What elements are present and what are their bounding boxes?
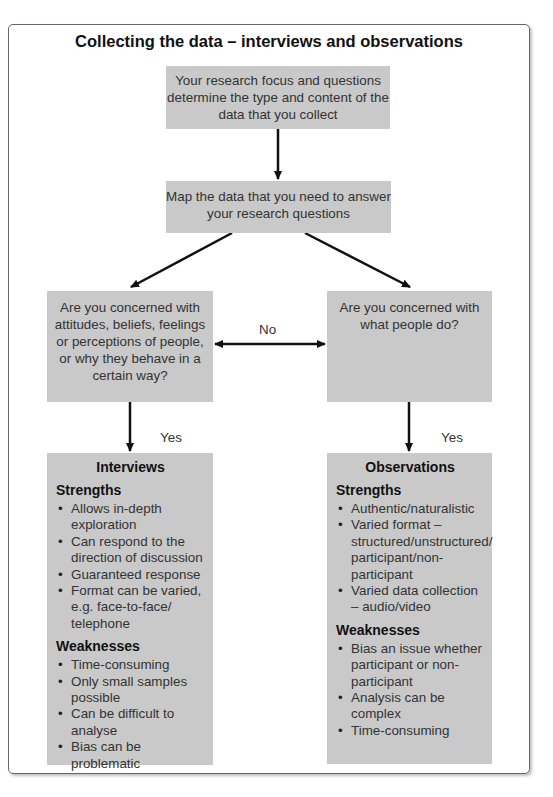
node-observations: Observations Strengths Authentic/natural… [327, 453, 492, 764]
node-text: Map the data that you need to answer you… [166, 188, 391, 222]
interviews-weaknesses-list: Time-consuming Only small samples possib… [56, 657, 205, 772]
edge-label-no: No [259, 322, 276, 337]
list-item: Time-consuming [336, 723, 484, 739]
list-item: Only small samples possible [56, 674, 205, 707]
list-item: Bias can be problematic [56, 739, 205, 772]
node-map-data: Map the data that you need to answer you… [166, 181, 391, 233]
interviews-strengths-heading: Strengths [56, 482, 205, 499]
node-text: Are you concerned with attitudes, belief… [53, 299, 207, 384]
list-item: Varied data collection – audio/video [336, 583, 484, 616]
observations-heading: Observations [336, 459, 484, 476]
interviews-heading: Interviews [56, 459, 205, 476]
list-item: Varied format – structured/unstructured/… [336, 517, 484, 583]
list-item: Format can be varied, e.g. face-to-face/… [56, 583, 205, 632]
observations-weaknesses-list: Bias an issue whether participant or non… [336, 641, 484, 739]
interviews-weaknesses-heading: Weaknesses [56, 638, 205, 655]
node-behaviour-question: Are you concerned with what people do? [327, 291, 492, 402]
edge-label-right-yes: Yes [441, 430, 463, 445]
interviews-strengths-list: Allows in-depth exploration Can respond … [56, 501, 205, 632]
list-item: Can be difficult to analyse [56, 706, 205, 739]
list-item: Bias an issue whether participant or non… [336, 641, 484, 690]
list-item: Time-consuming [56, 657, 205, 673]
arrow-map-to-left [131, 233, 232, 287]
list-item: Analysis can be complex [336, 690, 484, 723]
observations-strengths-heading: Strengths [336, 482, 484, 499]
list-item: Authentic/naturalistic [336, 501, 484, 517]
observations-weaknesses-heading: Weaknesses [336, 622, 484, 639]
node-research-focus: Your research focus and questions determ… [166, 66, 390, 129]
arrow-map-to-right [305, 233, 410, 287]
list-item: Guaranteed response [56, 567, 205, 583]
node-interviews: Interviews Strengths Allows in-depth exp… [47, 453, 213, 765]
observations-strengths-list: Authentic/naturalistic Varied format – s… [336, 501, 484, 616]
edge-label-left-yes: Yes [160, 430, 182, 445]
node-attitudes-question: Are you concerned with attitudes, belief… [47, 291, 213, 402]
list-item: Can respond to the direction of discussi… [56, 534, 205, 567]
node-text: Your research focus and questions determ… [166, 72, 390, 123]
node-text: Are you concerned with what people do? [333, 299, 486, 333]
list-item: Allows in-depth exploration [56, 501, 205, 534]
